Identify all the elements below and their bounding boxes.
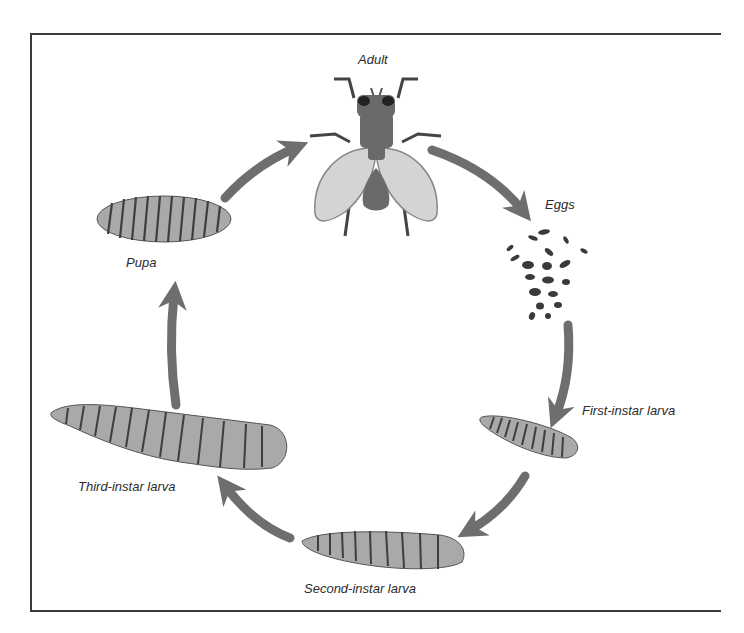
life-cycle-diagram: [0, 0, 744, 633]
label-third-instar-larva: Third-instar larva: [78, 479, 176, 494]
third-instar-larva-icon: [51, 405, 287, 470]
arrow-second-to-third-instar-icon: [226, 487, 290, 538]
pupa-icon: [97, 196, 231, 242]
second-instar-larva-icon: [302, 531, 464, 569]
arrow-pupa-to-adult-icon: [225, 148, 295, 198]
eggs-icon: [506, 228, 589, 320]
adult-fly-icon: [310, 79, 441, 236]
arrow-third-instar-to-pupa-icon: [171, 295, 176, 405]
label-second-instar-larva: Second-instar larva: [304, 581, 416, 596]
arrow-eggs-to-first-instar-icon: [556, 325, 569, 415]
arrow-first-to-second-instar-icon: [470, 476, 525, 530]
first-instar-larva-icon: [480, 416, 578, 458]
label-adult: Adult: [358, 52, 388, 67]
label-eggs: Eggs: [545, 197, 575, 212]
label-pupa: Pupa: [126, 255, 156, 270]
label-first-instar-larva: First-instar larva: [582, 403, 675, 418]
arrow-adult-to-eggs-icon: [432, 150, 522, 210]
